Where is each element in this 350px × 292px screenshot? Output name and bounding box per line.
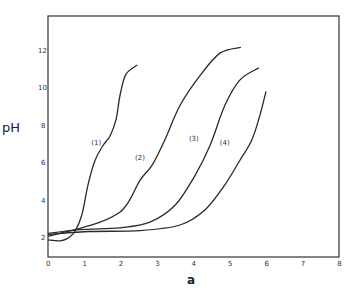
curve-label-4: (4) bbox=[220, 140, 230, 147]
y-tick-label: 2 bbox=[41, 235, 45, 242]
chart-plot-area bbox=[0, 0, 350, 292]
curves-group bbox=[48, 47, 266, 241]
curve-3 bbox=[48, 68, 259, 234]
curve-4 bbox=[48, 91, 266, 234]
x-tick-label: 2 bbox=[119, 261, 123, 268]
curve-label-3: (3) bbox=[189, 136, 199, 143]
y-tick-label: 4 bbox=[41, 198, 45, 205]
y-tick-label: 8 bbox=[41, 123, 45, 130]
x-axis-label: a bbox=[187, 273, 195, 287]
x-tick-label: 3 bbox=[155, 261, 159, 268]
x-tick-label: 5 bbox=[228, 261, 232, 268]
y-axis-label: pH bbox=[2, 120, 20, 135]
x-tick-label: 1 bbox=[82, 261, 86, 268]
y-tick-label: 6 bbox=[41, 160, 45, 167]
y-tick-label: 12 bbox=[38, 48, 47, 55]
curve-label-2: (2) bbox=[135, 155, 145, 162]
y-tick-label: 10 bbox=[38, 85, 47, 92]
x-tick-label: 4 bbox=[192, 261, 196, 268]
x-tick-label: 6 bbox=[264, 261, 268, 268]
x-tick-label: 8 bbox=[337, 261, 341, 268]
x-tick-label: 7 bbox=[301, 261, 305, 268]
x-tick-label: 0 bbox=[46, 261, 50, 268]
curve-label-1: (1) bbox=[91, 140, 101, 147]
curve-1 bbox=[48, 65, 137, 241]
